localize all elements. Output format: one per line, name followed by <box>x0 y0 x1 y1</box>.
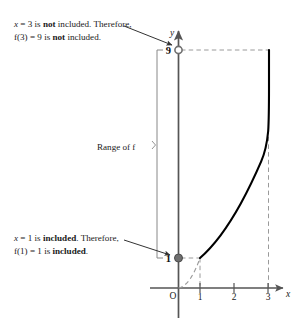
annotation-bottom-line1-post: . Therefore, <box>76 233 119 243</box>
annotation-bottom-line1-emphasis: included <box>43 233 76 243</box>
annotation-bottom-line2-post: . <box>86 246 88 256</box>
axes-group <box>150 31 283 318</box>
open-endpoint-marker-y9 <box>175 46 182 53</box>
y-value-label-upper: 9 <box>166 45 171 56</box>
annotation-top-excluded: x = 3 is not included. Therefore, f(3) =… <box>14 18 132 43</box>
annotation-top-line2: f(3) = 9 is not included. <box>14 31 132 44</box>
range-bracket <box>152 50 163 258</box>
annotation-top-line1-mid: = 3 is <box>18 19 43 29</box>
annotation-bottom-line2-pre: f(1) = 1 is <box>14 246 52 256</box>
annotation-bottom-included: x = 1 is included. Therefore, f(1) = 1 i… <box>14 232 119 257</box>
annotation-top-line1-emphasis: not <box>43 19 56 29</box>
annotation-top-line1: x = 3 is not included. Therefore, <box>14 18 132 31</box>
annotation-top-line2-post: included. <box>65 32 101 42</box>
annotation-bottom-line2-emphasis: included <box>52 246 85 256</box>
x-tick-label-3: 3 <box>266 292 271 302</box>
graph-canvas: y x O 1 2 3 9 1 <box>0 0 300 327</box>
curve-f-x-squared <box>200 50 269 258</box>
origin-label: O <box>170 291 177 301</box>
y-value-label-lower: 1 <box>166 253 171 264</box>
x-tick-label-2: 2 <box>232 292 237 302</box>
range-of-f-label: Range of f <box>97 142 135 152</box>
annotation-top-line1-post: included. Therefore, <box>56 19 132 29</box>
guide-lines-group <box>181 50 269 288</box>
x-tick-label-1: 1 <box>198 292 203 302</box>
annotation-bottom-line1: x = 1 is included. Therefore, <box>14 232 119 245</box>
annotation-bottom-line2: f(1) = 1 is included. <box>14 245 119 258</box>
annotation-top-line2-pre: f(3) = 9 is <box>14 32 52 42</box>
figure-container: y x O 1 2 3 9 1 x = 3 is not included. T… <box>0 0 300 327</box>
x-axis-label: x <box>285 289 291 299</box>
annotation-top-line2-emphasis: not <box>52 32 65 42</box>
annotation-bottom-line1-mid: = 1 is <box>18 233 43 243</box>
curve-excluded-dashed <box>179 258 201 288</box>
range-bracket-middle-notch <box>152 141 156 149</box>
y-axis-label: y <box>169 28 175 38</box>
closed-endpoint-marker-y1 <box>175 254 183 262</box>
annotation-arrow-bottom <box>124 240 170 255</box>
